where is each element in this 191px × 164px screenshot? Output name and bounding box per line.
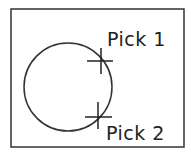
circle-entity [24, 43, 112, 131]
pick-points-diagram: Pick 1 Pick 2 [0, 0, 191, 164]
pick-2-label: Pick 2 [106, 122, 165, 144]
pick-1-label: Pick 1 [107, 28, 166, 50]
